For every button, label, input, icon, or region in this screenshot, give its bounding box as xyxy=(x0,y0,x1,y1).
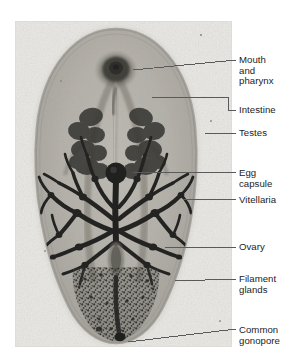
label-testes: Testes xyxy=(239,128,267,139)
label-filament-glands: Filament glands xyxy=(239,274,276,295)
leader-mouth-and-pharynx xyxy=(133,60,236,70)
label-ovary: Ovary xyxy=(239,242,265,253)
leader-filament-glands xyxy=(175,279,236,281)
label-mouth-and-pharynx: Mouth and pharynx xyxy=(239,55,273,87)
leader-egg-capsule xyxy=(131,172,236,173)
leader-common-gonopore xyxy=(128,329,236,342)
leader-intestine xyxy=(152,97,236,110)
anatomy-figure: Mouth and pharynx Intestine Testes Egg c… xyxy=(0,0,305,363)
label-vitellaria: Vitellaria xyxy=(239,195,276,206)
label-common-gonopore: Common gonopore xyxy=(239,325,280,346)
label-intestine: Intestine xyxy=(239,105,276,116)
label-egg-capsule: Egg capsule xyxy=(239,168,272,189)
